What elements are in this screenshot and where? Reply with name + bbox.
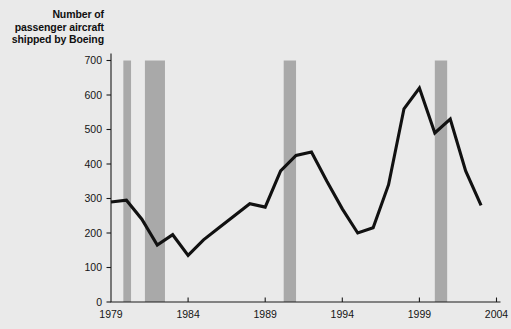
y-tick-label: 300 xyxy=(84,192,102,204)
line-chart-plot: 0100200300400500600700 19791984198919941… xyxy=(0,0,511,329)
x-tick-label: 1999 xyxy=(408,308,432,320)
x-axis-labels-group: 197919841989199419992004 xyxy=(99,308,508,320)
y-tick-label: 0 xyxy=(96,296,102,308)
x-tick-label: 1994 xyxy=(331,308,355,320)
x-tick-label: 2004 xyxy=(485,308,509,320)
recession-band xyxy=(145,61,165,303)
y-axis-labels-group: 0100200300400500600700 xyxy=(84,54,102,307)
recession-band xyxy=(123,61,131,303)
recession-band xyxy=(284,61,296,303)
y-tick-label: 200 xyxy=(84,227,102,239)
chart-container: Number of passenger aircraft shipped by … xyxy=(0,0,511,329)
x-tick-label: 1984 xyxy=(176,308,200,320)
x-tick-label: 1989 xyxy=(254,308,278,320)
y-tick-label: 600 xyxy=(84,89,102,101)
x-tick-label: 1979 xyxy=(99,308,123,320)
y-tick-label: 500 xyxy=(84,123,102,135)
recession-bands-group xyxy=(123,61,447,303)
y-tick-label: 400 xyxy=(84,158,102,170)
y-tick-label: 700 xyxy=(84,54,102,66)
y-tick-label: 100 xyxy=(84,261,102,273)
recession-band xyxy=(435,61,447,303)
